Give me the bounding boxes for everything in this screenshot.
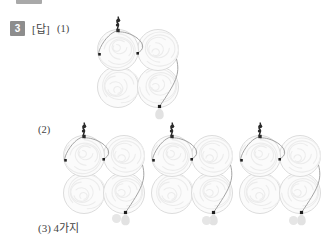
stray-dot-mid: [202, 216, 211, 225]
question-number-badge: 3: [10, 21, 25, 36]
cluster-part2-a: [62, 132, 146, 216]
stray-dot-left: [112, 214, 121, 223]
answer-label: [답]: [32, 20, 50, 36]
part-1-label: (1): [57, 23, 69, 34]
stray-dot-right: [289, 216, 298, 225]
cropped-header-bar: [16, 0, 42, 4]
cluster-part2-b: [150, 132, 234, 216]
part-3-label: (3) 4가지: [38, 219, 79, 235]
cluster-part1: [96, 26, 180, 110]
part-2-label: (2): [38, 124, 50, 135]
cluster-part2-c: [238, 132, 322, 216]
question-header: 3 [답] (1): [10, 20, 69, 36]
